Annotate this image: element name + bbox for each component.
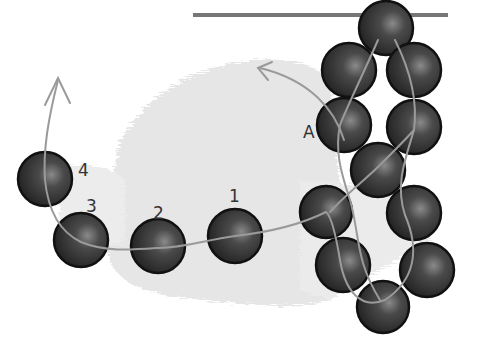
label-bead-4: 4 [78,160,89,180]
bead-lower-right-b [400,243,454,297]
bead-lower-right-a [387,186,441,240]
beading-diagram: 1 2 3 4 A [0,0,478,356]
bead-bottom [357,281,409,333]
label-bead-2: 2 [153,203,164,223]
bead-upper-right [387,43,441,97]
bead-3 [54,213,108,267]
label-bead-a: A [303,122,315,142]
label-bead-1: 1 [229,186,240,206]
bead-center [351,143,405,197]
bead-upper-left [322,43,376,97]
label-bead-3: 3 [86,196,97,216]
bead-lower-left-b [316,238,370,292]
